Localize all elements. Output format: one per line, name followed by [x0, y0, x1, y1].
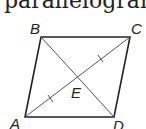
label-c: C — [131, 20, 142, 37]
label-d: D — [113, 117, 124, 129]
parallelogram-diagram: B C E A D — [0, 0, 146, 129]
label-b: B — [30, 20, 40, 37]
label-a: A — [9, 115, 20, 129]
label-e: E — [71, 84, 82, 101]
diagonal-bd — [41, 37, 114, 117]
